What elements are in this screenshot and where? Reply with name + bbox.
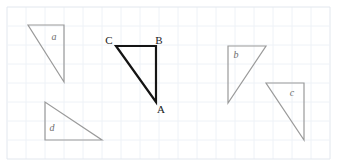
shape-label-c: c xyxy=(290,87,295,98)
shape-label-a: a xyxy=(52,31,57,42)
label-B: B xyxy=(155,34,162,46)
triangle-a xyxy=(28,25,64,82)
figure-canvas: adbcCBA xyxy=(0,0,347,168)
triangle-abc xyxy=(116,46,156,102)
triangle-c xyxy=(266,83,304,140)
label-A: A xyxy=(157,103,165,115)
shape-label-d: d xyxy=(50,122,56,133)
geometry-figure: adbcCBA xyxy=(0,0,347,168)
shape-label-b: b xyxy=(234,49,239,60)
label-C: C xyxy=(105,34,112,46)
